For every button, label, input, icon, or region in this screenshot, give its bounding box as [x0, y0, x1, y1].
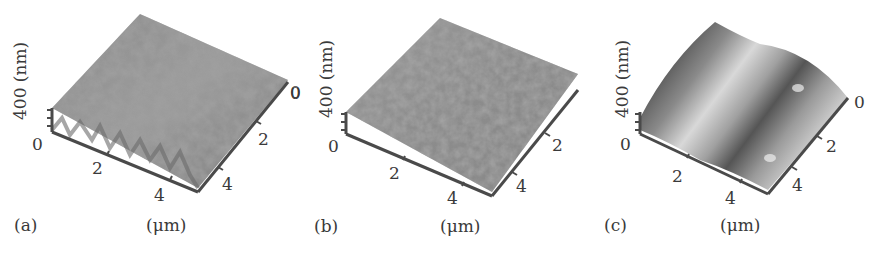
unit-label-b: (μm) [440, 218, 480, 235]
panel-label-c: (c) [604, 217, 627, 234]
z-zero-b: 0 [328, 138, 339, 155]
y-tick-4-a: 4 [222, 176, 233, 193]
y-tick-4-b: 4 [516, 178, 527, 195]
y-tick-4-c: 4 [792, 177, 803, 194]
y-tick-2-a: 2 [258, 131, 269, 148]
x-tick-2-b: 2 [389, 165, 400, 182]
x-tick-4-a: 4 [154, 187, 165, 204]
panel-a: 400 (nm) 0 2 4 0 2 4 (a) (μm) [0, 0, 293, 255]
x-tick-4-b: 4 [447, 190, 458, 207]
panel-label-a: (a) [14, 217, 37, 234]
y-tick-2-b: 2 [552, 137, 563, 154]
panel-c: 400 (nm) 0 2 4 0 2 4 (c) (μm) [580, 0, 873, 255]
y-tick-0-c: 0 [854, 94, 865, 111]
panel-b: 400 (nm) 0 2 4 0 2 4 (b) (μm) [290, 0, 583, 255]
x-tick-2-a: 2 [92, 160, 103, 177]
z-axis-label-c: 400 (nm) [612, 40, 632, 118]
unit-label-c: (μm) [720, 217, 760, 234]
panel-label-b: (b) [314, 218, 338, 235]
z-zero-a: 0 [32, 136, 43, 153]
x-tick-2-c: 2 [672, 168, 683, 185]
z-axis-label-a: 400 (nm) [10, 42, 30, 120]
z-axis-label-b: 400 (nm) [316, 40, 336, 118]
y-tick-0-b: 0 [290, 85, 301, 102]
y-tick-2-c: 2 [826, 138, 837, 155]
unit-label-a: (μm) [146, 217, 186, 234]
z-zero-c: 0 [620, 136, 631, 153]
x-tick-4-c: 4 [725, 190, 736, 207]
